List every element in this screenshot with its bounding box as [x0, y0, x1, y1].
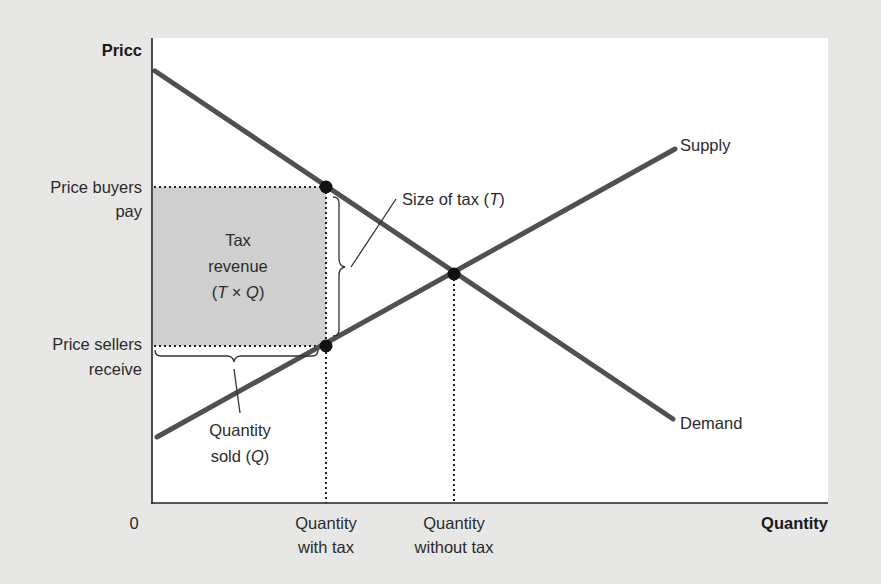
tax-revenue-label: Tax — [225, 231, 251, 249]
price-buyers-pay-label-2: pay — [115, 202, 142, 220]
tax-revenue-label-2: revenue — [208, 257, 268, 275]
tax-revenue-chart: Pricc Quantity 0 Price buyers pay Price … — [0, 0, 881, 584]
price-sellers-receive-label-2: receive — [89, 360, 142, 378]
tax-revenue-formula: (T × Q) — [212, 283, 265, 301]
price-buyers-pay-point — [320, 181, 333, 194]
qty-with-tax-label-2: with tax — [297, 538, 355, 556]
qty-without-tax-label: Quantity — [423, 514, 485, 532]
demand-label: Demand — [680, 414, 742, 432]
price-sellers-receive-point — [320, 340, 333, 353]
price-sellers-receive-label: Price sellers — [52, 335, 142, 353]
qty-with-tax-label: Quantity — [295, 514, 357, 532]
price-buyers-pay-label: Price buyers — [50, 178, 142, 196]
equilibrium-point — [448, 268, 461, 281]
qty-without-tax-label-2: without tax — [414, 538, 495, 556]
quantity-sold-label-2: sold (Q) — [211, 447, 270, 465]
x-axis-title: Quantity — [761, 514, 829, 532]
y-axis-title: Pricc — [102, 41, 142, 59]
origin-label: 0 — [129, 514, 138, 532]
quantity-sold-label: Quantity — [209, 421, 271, 439]
size-of-tax-label: Size of tax (T) — [402, 190, 505, 208]
supply-label: Supply — [680, 136, 731, 154]
